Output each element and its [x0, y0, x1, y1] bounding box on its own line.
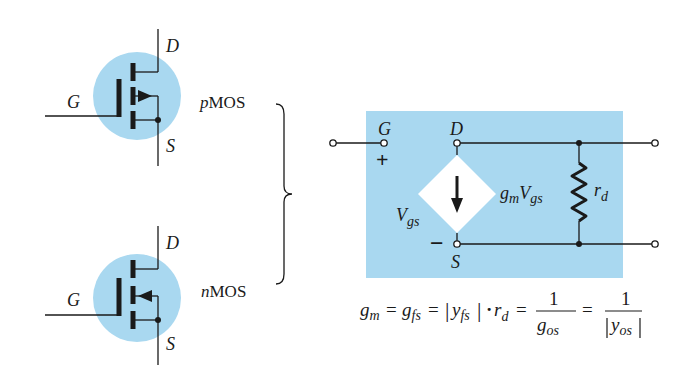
parameter-formula: gm = gfs = | yfs | · rd = 1 gos = 1 yos: [360, 288, 642, 338]
nmos-type-label: nMOS: [201, 282, 246, 301]
equivalent-circuit: G D S + − Vgs gmVgs rd: [330, 111, 658, 278]
grouping-brace-icon: [276, 104, 292, 284]
svg-text:1: 1: [621, 288, 631, 309]
output-top-terminal: [652, 140, 658, 146]
pmos-gate-label: G: [67, 92, 80, 112]
svg-text:yfs: yfs: [450, 299, 470, 323]
svg-text:gos: gos: [537, 314, 560, 338]
pmos-type-label: pMOS: [199, 93, 245, 112]
svg-text:|: |: [445, 297, 449, 322]
input-terminal: [330, 140, 336, 146]
pmos-junction-dot: [155, 117, 161, 123]
ec-drain-label: D: [449, 119, 463, 139]
svg-text:yos: yos: [609, 314, 632, 338]
resistor-bottom-junction-dot: [576, 241, 582, 247]
ec-source-label: S: [451, 252, 460, 272]
svg-text:1: 1: [549, 288, 559, 309]
svg-text:=: =: [428, 299, 439, 320]
ec-plus-sign: +: [376, 147, 389, 172]
svg-text:=: =: [386, 299, 397, 320]
resistor-top-junction-dot: [576, 140, 582, 146]
svg-text:gfs: gfs: [402, 299, 421, 323]
pmos-source-label: S: [166, 136, 175, 156]
svg-text:·: ·: [486, 299, 492, 320]
source-terminal: [454, 241, 460, 247]
mosfet-small-signal-diagram: G D S pMOS G D S nMOS: [0, 0, 698, 384]
svg-text:=: =: [516, 299, 527, 320]
ec-minus-sign: −: [430, 230, 444, 256]
svg-text:gm: gm: [360, 299, 380, 323]
nmos-drain-label: D: [165, 233, 179, 253]
svg-text:|: |: [477, 297, 481, 322]
ec-gate-label: G: [378, 119, 391, 139]
output-bottom-terminal: [652, 241, 658, 247]
nmos-circle: [93, 254, 181, 342]
pmos-symbol: G D S pMOS: [45, 29, 245, 166]
nmos-symbol: G D S nMOS: [45, 226, 246, 365]
drain-terminal: [454, 140, 460, 146]
svg-text:rd: rd: [494, 299, 509, 324]
nmos-junction-dot: [155, 317, 161, 323]
nmos-gate-label: G: [67, 290, 80, 310]
pmos-drain-label: D: [165, 36, 179, 56]
svg-text:=: =: [582, 299, 593, 320]
nmos-source-label: S: [166, 334, 175, 354]
gate-terminal: [381, 140, 387, 146]
